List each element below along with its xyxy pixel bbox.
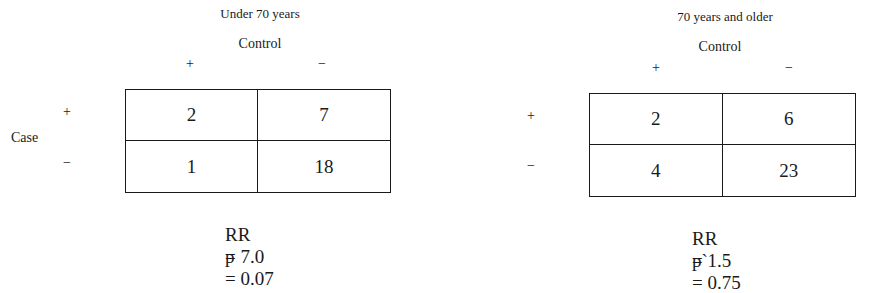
column-sign-positive: + bbox=[180, 56, 200, 72]
table-cell: 23 bbox=[723, 145, 856, 196]
column-sign-negative: − bbox=[779, 60, 799, 76]
row-sign-negative: − bbox=[57, 155, 77, 171]
table-cell: 2 bbox=[590, 94, 723, 145]
column-label: Control bbox=[680, 39, 760, 55]
column-sign-positive: + bbox=[646, 60, 666, 76]
stat-value: = 0.75 bbox=[692, 272, 741, 293]
table-cell: 7 bbox=[258, 90, 390, 141]
panel-title: Under 70 years bbox=[190, 6, 330, 22]
row-sign-positive: + bbox=[521, 108, 541, 124]
table-cell: 4 bbox=[590, 145, 723, 196]
row-sign-negative: − bbox=[521, 158, 541, 174]
table-cell: 2 bbox=[126, 90, 258, 141]
contingency-table: 2 6 4 23 bbox=[589, 93, 856, 197]
row-sign-positive: + bbox=[57, 104, 77, 120]
table-cell: 18 bbox=[258, 141, 390, 192]
stat-p: p` = 0.75 bbox=[673, 228, 741, 293]
table-cell: 1 bbox=[126, 141, 258, 192]
column-label: Control bbox=[220, 36, 300, 52]
table-cell: 6 bbox=[723, 94, 856, 145]
stat-label: p` bbox=[692, 250, 726, 272]
stat-p: p = 0.07 bbox=[206, 224, 274, 293]
stat-label: p bbox=[225, 246, 259, 268]
column-sign-negative: − bbox=[312, 56, 332, 72]
panel-title: 70 years and older bbox=[655, 9, 795, 25]
stat-value: = 0.07 bbox=[225, 268, 274, 289]
contingency-table: 2 7 1 18 bbox=[125, 89, 391, 193]
row-label: Case bbox=[11, 130, 38, 146]
